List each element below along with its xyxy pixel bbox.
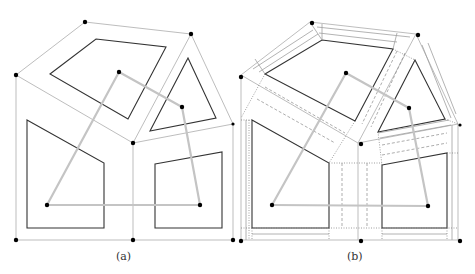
diagram-canvas bbox=[0, 0, 475, 274]
corridor-lines bbox=[246, 22, 456, 240]
obstacle-pentagon-left bbox=[27, 120, 104, 228]
panel-a bbox=[14, 20, 235, 242]
cell-boundaries bbox=[16, 22, 233, 240]
panel-a-label: (a) bbox=[116, 250, 131, 263]
obstacle-quad-right bbox=[155, 152, 222, 228]
vertex-dots bbox=[239, 21, 462, 243]
corridor-dotted bbox=[241, 49, 458, 240]
obstacles bbox=[27, 39, 222, 228]
obstacle-quad-right bbox=[382, 153, 447, 228]
tree-edges bbox=[272, 73, 428, 206]
obstacle-quad-top bbox=[50, 39, 166, 119]
obstacles bbox=[252, 40, 447, 228]
obstacle-quad-top bbox=[265, 40, 393, 121]
tree-edges bbox=[47, 72, 200, 205]
panel-b bbox=[239, 21, 462, 243]
panel-b-label: (b) bbox=[347, 250, 363, 263]
